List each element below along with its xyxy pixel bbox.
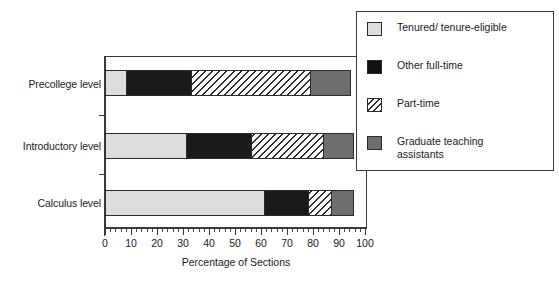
bar-precollege-level (105, 70, 351, 96)
legend-label-graduate-teaching-assistants: Graduate teaching assistants (397, 135, 483, 160)
x-tick-label-20: 20 (144, 237, 170, 249)
x-tick-label-60: 60 (248, 237, 274, 249)
category-label-introductory: Introductory level (1, 140, 101, 152)
legend-item-other-full-time: Other full-time (367, 59, 545, 85)
y-axis-tick-1 (99, 115, 105, 116)
legend-item-part-time: Part-time (367, 97, 545, 123)
category-axis-labels: Precollege level Introductory level Calc… (0, 0, 101, 283)
x-tick-label-0: 0 (92, 237, 118, 249)
x-axis-title: Percentage of Sections (105, 256, 367, 268)
legend: Tenured/ tenure-eligible Other full-time… (356, 11, 554, 171)
x-tick-label-90: 90 (326, 237, 352, 249)
legend-item-graduate-teaching-assistants: Graduate teaching assistants (367, 135, 545, 161)
legend-label-other-full-time: Other full-time (397, 59, 463, 72)
segment-tenured-introductory (106, 134, 187, 158)
y-axis-tick-2 (99, 174, 105, 175)
light-gray-swatch-icon (367, 22, 382, 36)
segment-gta-precollege (311, 71, 350, 95)
segment-other-full-time-precollege (127, 71, 192, 95)
segment-tenured-calculus (106, 191, 265, 215)
segment-part-time-calculus (309, 191, 332, 215)
category-label-precollege: Precollege level (1, 78, 101, 90)
x-tick-label-100: 100 (352, 237, 378, 249)
stacked-bar-chart: Precollege level Introductory level Calc… (0, 0, 559, 283)
x-tick-label-50: 50 (222, 237, 248, 249)
bar-calculus-level (105, 190, 354, 216)
x-tick-label-30: 30 (170, 237, 196, 249)
hatched-swatch-icon (367, 98, 382, 112)
category-label-calculus: Calculus level (1, 197, 101, 209)
y-axis-line (104, 56, 105, 236)
x-tick-label-70: 70 (274, 237, 300, 249)
segment-tenured-precollege (106, 71, 127, 95)
x-tick-label-10: 10 (118, 237, 144, 249)
segment-other-full-time-introductory (187, 134, 252, 158)
black-swatch-icon (367, 60, 382, 74)
x-tick-label-40: 40 (196, 237, 222, 249)
segment-gta-calculus (332, 191, 353, 215)
bar-introductory-level (105, 133, 354, 159)
segment-part-time-precollege (192, 71, 312, 95)
segment-other-full-time-calculus (265, 191, 309, 215)
legend-label-part-time: Part-time (397, 97, 440, 110)
legend-item-tenured: Tenured/ tenure-eligible (367, 21, 545, 47)
segment-gta-introductory (324, 134, 353, 158)
legend-label-tenured: Tenured/ tenure-eligible (397, 21, 507, 34)
x-tick-label-80: 80 (300, 237, 326, 249)
dark-gray-swatch-icon (367, 136, 382, 150)
segment-part-time-introductory (252, 134, 325, 158)
